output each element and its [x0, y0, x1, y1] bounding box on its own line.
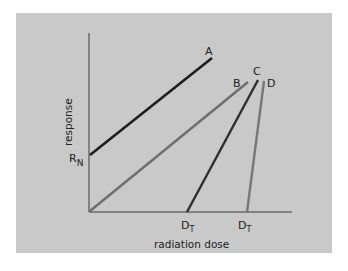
label-b: B	[233, 77, 241, 90]
label-a: A	[205, 45, 213, 58]
x-axis-label: radiation dose	[154, 238, 229, 250]
label-c: C	[253, 65, 261, 78]
label-dt-2: DT	[238, 219, 251, 234]
label-rn: RN	[69, 152, 83, 168]
line-c	[187, 80, 258, 212]
line-b	[90, 82, 248, 211]
line-a	[90, 58, 212, 155]
label-d: D	[267, 77, 275, 90]
line-d	[247, 81, 264, 212]
dose-response-chart: A B C D RN DT DT radiation dose response	[0, 0, 348, 271]
y-axis-label: response	[62, 98, 74, 146]
label-dt-1: DT	[181, 219, 194, 234]
